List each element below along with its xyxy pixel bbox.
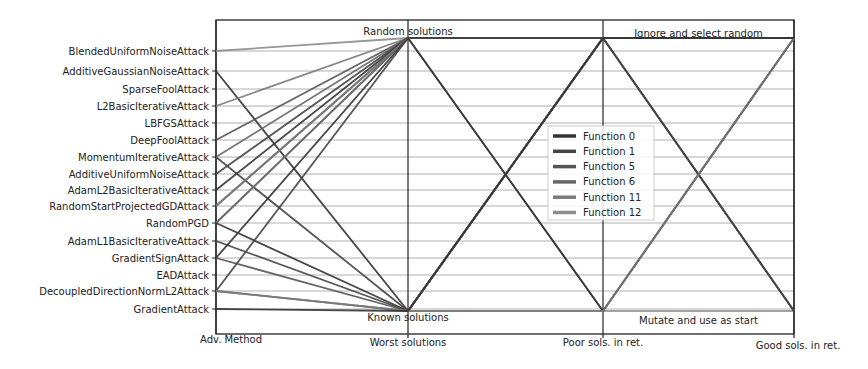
tick-label-9: RandomStartProjectedGDAttack	[49, 201, 209, 212]
axis-label-2: Poor sols. in ret.	[563, 337, 643, 348]
tick-label-5: DeepFoolAttack	[130, 135, 209, 146]
legend-label-0: Function 0	[583, 131, 635, 142]
tick-label-10: RandomPGD	[146, 218, 209, 229]
tick-label-4: LBFGSAttack	[145, 118, 210, 129]
data-line	[216, 38, 794, 106]
tick-label-15: GradientAttack	[134, 304, 210, 315]
tick-label-1: AdditiveGaussianNoiseAttack	[63, 66, 210, 77]
tick-label-3: L2BasicIterativeAttack	[97, 101, 210, 112]
axis-labels: BlendedUniformNoiseAttackAdditiveGaussia…	[39, 26, 840, 351]
tick-label-7: AdditiveUniformNoiseAttack	[69, 169, 210, 180]
axis-label-0: Adv. Method	[200, 334, 262, 345]
axis-label-3: Good sols. in ret.	[756, 340, 841, 351]
tick-label-11: AdamL1BasicIterativeAttack	[68, 236, 209, 247]
legend-label-1: Function 1	[583, 146, 635, 157]
level-label-known-solutions: Known solutions	[367, 312, 449, 323]
legend-label-3: Function 6	[583, 176, 635, 187]
chart-canvas: BlendedUniformNoiseAttackAdditiveGaussia…	[0, 0, 868, 369]
data-line	[216, 38, 794, 51]
legend-label-2: Function 5	[583, 161, 635, 172]
tick-label-0: BlendedUniformNoiseAttack	[69, 46, 210, 57]
parallel-coordinates-chart: BlendedUniformNoiseAttackAdditiveGaussia…	[0, 0, 868, 369]
legend-label-4: Function 11	[583, 192, 641, 203]
tick-label-6: MomentumIterativeAttack	[78, 152, 209, 163]
level-label-mutate-use-start: Mutate and use as start	[639, 315, 758, 326]
legend: Function 0Function 1Function 5Function 6…	[548, 126, 654, 220]
legend-label-5: Function 12	[583, 207, 641, 218]
tick-label-2: SparseFoolAttack	[122, 84, 209, 95]
level-label-random-solutions: Random solutions	[363, 26, 452, 37]
tick-label-13: EADAttack	[156, 270, 209, 281]
tick-label-14: DecoupledDirectionNormL2Attack	[39, 286, 209, 297]
tick-label-12: GradientSignAttack	[112, 253, 209, 264]
axis-label-1: Worst solutions	[370, 337, 447, 348]
level-label-ignore-select-random: Ignore and select random	[634, 28, 763, 39]
tick-label-8: AdamL2BasicIterativeAttack	[68, 185, 209, 196]
